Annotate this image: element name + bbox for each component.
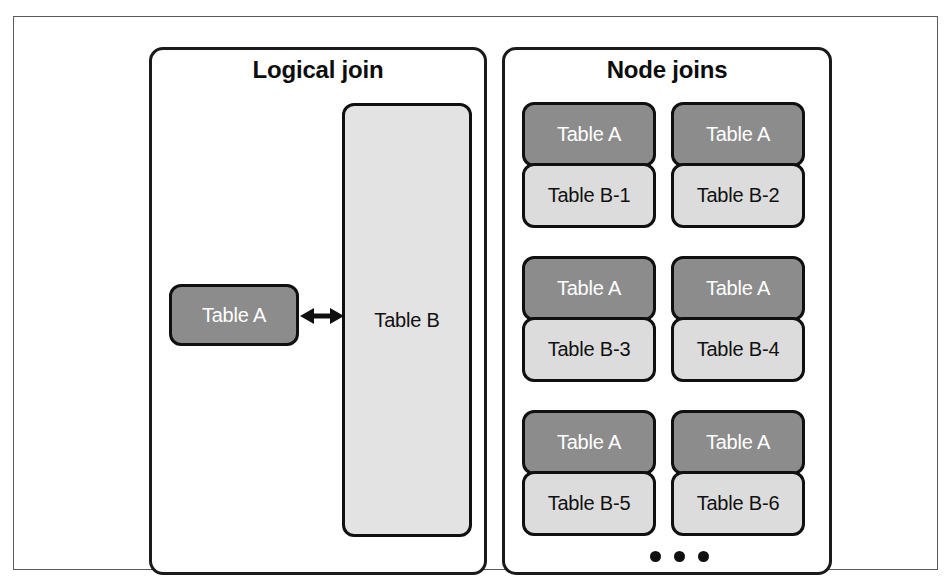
- node-join-pair: Table A Table B-5: [522, 410, 656, 536]
- more-nodes-ellipsis: [650, 551, 709, 562]
- node-table-a-box: Table A: [671, 410, 805, 475]
- logical-join-table-a-box: Table A: [169, 284, 299, 346]
- ellipsis-dot: [674, 551, 685, 562]
- node-table-b-box: Table B-2: [671, 163, 805, 228]
- double-headed-arrow-icon: [300, 303, 344, 329]
- node-table-a-box: Table A: [671, 102, 805, 167]
- node-table-b-box: Table B-3: [522, 317, 656, 382]
- node-joins-panel: Node joins Table A Table B-1 Table A Tab…: [502, 47, 832, 575]
- node-join-pair: Table A Table B-3: [522, 256, 656, 382]
- node-table-b-box: Table B-1: [522, 163, 656, 228]
- node-join-pair: Table A Table B-6: [671, 410, 805, 536]
- node-table-b-box: Table B-4: [671, 317, 805, 382]
- node-table-b-box: Table B-6: [671, 471, 805, 536]
- node-join-pair: Table A Table B-2: [671, 102, 805, 228]
- node-table-b-box: Table B-5: [522, 471, 656, 536]
- node-joins-title: Node joins: [505, 56, 829, 84]
- node-join-pair: Table A Table B-4: [671, 256, 805, 382]
- logical-join-table-b-box: Table B: [342, 103, 472, 537]
- node-join-pair: Table A Table B-1: [522, 102, 656, 228]
- node-table-a-box: Table A: [522, 102, 656, 167]
- node-table-a-box: Table A: [671, 256, 805, 321]
- ellipsis-dot: [650, 551, 661, 562]
- outer-frame: Logical join Table A Table B Node joins …: [13, 16, 938, 570]
- node-table-a-box: Table A: [522, 256, 656, 321]
- logical-join-title: Logical join: [152, 56, 484, 84]
- ellipsis-dot: [698, 551, 709, 562]
- logical-join-panel: Logical join Table A Table B: [149, 47, 487, 575]
- diagram-canvas: Logical join Table A Table B Node joins …: [0, 0, 951, 585]
- node-table-a-box: Table A: [522, 410, 656, 475]
